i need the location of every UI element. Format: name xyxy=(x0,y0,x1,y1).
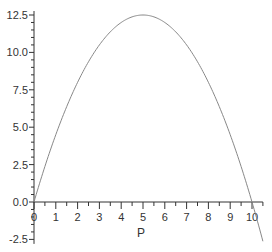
x-tick-label: 3 xyxy=(96,211,102,223)
x-axis-title: P xyxy=(137,226,145,240)
chart: -2.50.02.55.07.510.012.5 012345678910 P xyxy=(0,0,272,252)
y-tick-label: 5.0 xyxy=(13,121,28,133)
x-tick-label: 2 xyxy=(75,211,81,223)
x-axis: 012345678910 xyxy=(31,202,263,223)
y-tick-label: 0.0 xyxy=(13,196,28,208)
x-tick-label: 4 xyxy=(118,211,124,223)
x-tick-label: 5 xyxy=(140,211,146,223)
y-axis: -2.50.02.55.07.510.012.5 xyxy=(7,9,34,245)
y-tick-label: 10.0 xyxy=(7,46,28,58)
y-tick-label: 7.5 xyxy=(13,84,28,96)
x-tick-label: 1 xyxy=(53,211,59,223)
x-tick-label: 7 xyxy=(184,211,190,223)
x-tick-label: 8 xyxy=(205,211,211,223)
y-tick-label: 12.5 xyxy=(7,9,28,21)
y-tick-label: -2.5 xyxy=(9,233,28,245)
x-tick-label: 0 xyxy=(31,211,37,223)
x-tick-label: 6 xyxy=(162,211,168,223)
y-tick-label: 2.5 xyxy=(13,159,28,171)
x-tick-label: 9 xyxy=(227,211,233,223)
data-curve xyxy=(34,15,263,241)
